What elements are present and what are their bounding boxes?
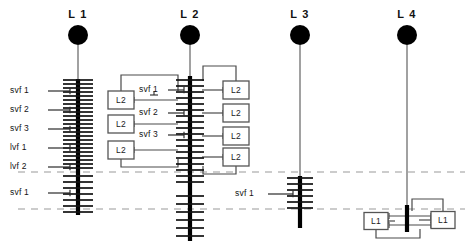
box-label-l2-1: L2 <box>116 119 126 129</box>
box-label-l2-4: L2 <box>231 108 241 118</box>
feature-label-l1-0: svf 1 <box>10 85 29 95</box>
box-label-l2-5: L2 <box>231 131 241 141</box>
nodes-layer <box>68 25 417 45</box>
node-L3 <box>290 25 310 45</box>
feature-label-l1-4: lvf 2 <box>10 161 27 171</box>
bracket-l2-right-bottom <box>203 166 236 174</box>
diagram-svg <box>0 0 465 246</box>
box-label-l1-7: L1 <box>371 216 381 226</box>
box-label-l2-6: L2 <box>231 152 241 162</box>
bracket-l4-left-bottom <box>376 229 420 238</box>
box-label-l1-8: L1 <box>438 215 448 225</box>
tick-marks-layer <box>63 80 313 236</box>
feature-label-l1-3: lvf 1 <box>10 142 27 152</box>
node-L1 <box>68 25 88 45</box>
feature-label-l1-1: svf 2 <box>10 104 29 114</box>
column-title-l3: L 3 <box>290 8 309 20</box>
bracket-l2-left-bottom <box>121 159 178 167</box>
boxes-layer <box>108 81 455 230</box>
feature-label-l2-0: svf 1 <box>139 84 158 94</box>
feature-label-l3-0: svf 1 <box>235 188 254 198</box>
connectors-layer <box>121 66 443 238</box>
feature-label-l1-5: svf 1 <box>10 187 29 197</box>
column-title-l1: L 1 <box>68 8 87 20</box>
feature-label-l2-1: svf 2 <box>139 107 158 117</box>
node-L2 <box>180 25 200 45</box>
node-L4 <box>397 25 417 45</box>
box-label-l2-2: L2 <box>116 145 126 155</box>
figure-canvas: L 1L 2L 3L 4 svf 1svf 2svf 3lvf 1lvf 2sv… <box>0 0 465 246</box>
feature-label-l1-2: svf 3 <box>10 123 29 133</box>
column-title-l2: L 2 <box>180 8 199 20</box>
bracket-l2-right-top <box>203 66 236 81</box>
box-label-l2-0: L2 <box>116 95 126 105</box>
column-title-l4: L 4 <box>397 8 416 20</box>
box-label-l2-3: L2 <box>231 85 241 95</box>
feature-label-l2-2: svf 3 <box>139 129 158 139</box>
